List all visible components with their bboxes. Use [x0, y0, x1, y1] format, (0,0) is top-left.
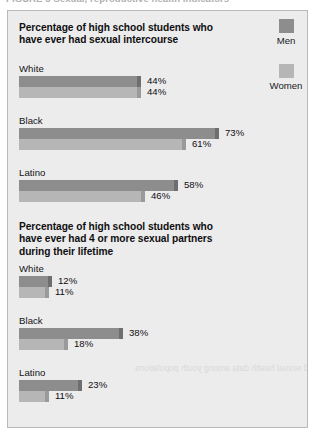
bar-men-white-chart2 [19, 276, 52, 287]
bar-row-men-white-chart1: 44% [19, 76, 44, 87]
bar-value-women-latino-chart2: 11% [55, 390, 74, 401]
bar-value-men-latino-chart2: 23% [88, 379, 107, 390]
legend-label-men: Men [264, 35, 308, 46]
bar-value-women-black-chart1: 61% [192, 138, 211, 149]
group-label-latino-chart1: Latino [19, 167, 45, 178]
bar-women-latino-chart1 [19, 191, 145, 202]
bar-group-black-chart1: Black 73% 61% [19, 115, 43, 150]
chart-legend: Men Women [264, 19, 308, 91]
bar-row-men-latino-chart2: 23% [19, 380, 45, 391]
bar-value-men-white-chart1: 44% [147, 75, 166, 86]
bar-women-latino-chart2 [19, 391, 49, 402]
bar-value-women-white-chart1: 44% [147, 86, 166, 97]
bar-row-women-black-chart1: 61% [19, 139, 43, 150]
legend-entry-men: Men [264, 19, 308, 46]
bar-group-white-chart1: White 44% 44% [19, 63, 44, 98]
bar-value-women-black-chart2: 18% [74, 338, 93, 349]
bar-men-black-chart1 [19, 128, 219, 139]
clipped-page-caption: FIGURE 3 Sexual, reproductive health ind… [6, 0, 306, 5]
bar-row-women-white-chart2: 11% [19, 287, 44, 298]
group-label-white-chart1: White [19, 63, 44, 74]
bar-row-men-black-chart2: 38% [19, 328, 43, 339]
bar-row-men-black-chart1: 73% [19, 128, 43, 139]
group-label-white-chart2: White [19, 263, 44, 274]
legend-swatch-women-icon [279, 64, 294, 78]
bar-value-men-latino-chart1: 58% [184, 179, 203, 190]
legend-swatch-men-icon [279, 19, 294, 33]
bar-row-men-white-chart2: 12% [19, 276, 44, 287]
bar-value-men-white-chart2: 12% [58, 275, 77, 286]
bar-value-women-latino-chart1: 46% [151, 190, 170, 201]
bar-group-white-chart2: White 12% 11% [19, 263, 44, 298]
legend-label-women: Women [264, 80, 308, 91]
bar-row-women-black-chart2: 18% [19, 339, 43, 350]
bar-group-black-chart2: Black 38% 18% [19, 315, 43, 350]
group-label-black-chart1: Black [19, 115, 43, 126]
chart-title-partners: Percentage of high school students who h… [19, 221, 237, 258]
bar-men-white-chart1 [19, 76, 141, 87]
bar-row-men-latino-chart1: 58% [19, 180, 45, 191]
group-label-latino-chart2: Latino [19, 367, 45, 378]
figure-panel: and sexual health data among youth popul… [7, 10, 308, 428]
bar-value-men-black-chart2: 38% [129, 327, 148, 338]
bar-row-women-latino-chart2: 11% [19, 391, 45, 402]
legend-entry-women: Women [264, 64, 308, 91]
group-label-black-chart2: Black [19, 315, 43, 326]
bar-women-white-chart2 [19, 287, 49, 298]
bar-value-women-white-chart2: 11% [55, 286, 74, 297]
bar-women-white-chart1 [19, 87, 141, 98]
chart-title-intercourse: Percentage of high school students who h… [19, 22, 231, 47]
bar-men-black-chart2 [19, 328, 123, 339]
bar-row-women-white-chart1: 44% [19, 87, 44, 98]
bar-value-men-black-chart1: 73% [225, 127, 244, 138]
bar-group-latino-chart2: Latino 23% 11% [19, 367, 45, 402]
bar-women-black-chart1 [19, 139, 186, 150]
bar-row-women-latino-chart1: 46% [19, 191, 45, 202]
bar-women-black-chart2 [19, 339, 68, 350]
page-bleed-through-text: and sexual health data among youth popul… [128, 363, 308, 425]
bar-group-latino-chart1: Latino 58% 46% [19, 167, 45, 202]
